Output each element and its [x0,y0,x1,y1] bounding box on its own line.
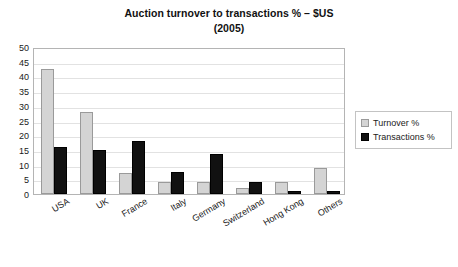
chart-title-line2: (2005) [0,21,458,36]
x-axis-tick-label: Others [315,196,343,218]
bar-turnover [275,182,288,194]
bar-group [158,49,184,194]
legend-item-transactions: Transactions % [361,130,446,143]
bar-group [41,49,67,194]
x-axis: USAUKFranceItalyGermanySwitzerlandHong K… [33,196,345,258]
y-axis-tick-label: 50 [0,44,29,53]
bar-transactions [132,141,145,194]
y-axis-tick-label: 35 [0,88,29,97]
chart-title: Auction turnover to transactions % – $US… [0,6,458,36]
y-axis-tick-label: 5 [0,176,29,185]
bar-turnover [119,173,132,194]
bar-group [275,49,301,194]
y-axis-tick-label: 15 [0,146,29,155]
legend-label-turnover: Turnover % [373,118,419,128]
y-axis-tick-label: 30 [0,102,29,111]
bar-group [80,49,106,194]
x-axis-tick-label: UK [94,196,110,211]
legend-label-transactions: Transactions % [373,132,435,142]
bar-group [119,49,145,194]
chart-legend: Turnover % Transactions % [355,111,452,149]
y-axis-tick-label: 20 [0,132,29,141]
bar-turnover [236,188,249,194]
bar-turnover [197,182,210,194]
bars-layer [34,49,344,194]
bar-transactions [249,182,262,194]
bar-group [236,49,262,194]
y-axis-tick-label: 45 [0,58,29,67]
transactions-swatch-icon [361,133,369,141]
turnover-swatch-icon [361,119,369,127]
bar-transactions [210,154,223,194]
x-axis-tick-label: Switzerland [221,196,266,229]
x-axis-tick-label: Italy [168,196,187,213]
bar-turnover [158,182,171,194]
y-axis: 50454035302520151050 [0,48,29,195]
bar-turnover [314,168,327,194]
y-axis-tick-label: 10 [0,161,29,170]
bar-transactions [171,172,184,194]
bar-group [314,49,340,194]
plot-area [33,48,345,195]
bar-turnover [80,112,93,194]
plot-inner [34,49,344,194]
x-axis-tick-label: Hong Kong [261,196,305,228]
bar-group [197,49,223,194]
bar-turnover [41,69,54,194]
bar-transactions [327,191,340,194]
bar-transactions [54,147,67,194]
y-axis-tick-label: 25 [0,117,29,126]
x-axis-tick-label: France [119,196,148,219]
y-axis-tick-label: 40 [0,73,29,82]
bar-transactions [288,191,301,194]
x-axis-tick-label: USA [50,196,71,214]
legend-item-turnover: Turnover % [361,116,446,129]
chart-title-line1: Auction turnover to transactions % – $US [124,7,333,19]
y-axis-tick-label: 0 [0,191,29,200]
bar-transactions [93,150,106,194]
